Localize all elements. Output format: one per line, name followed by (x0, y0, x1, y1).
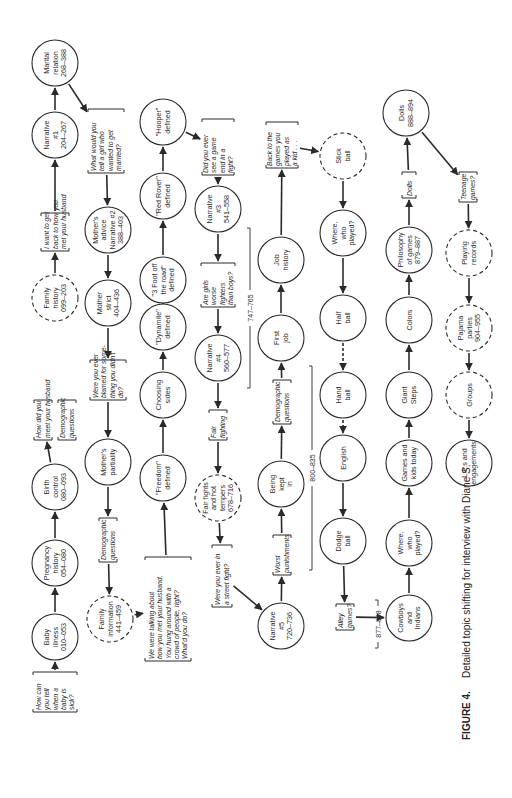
diagram-node-circle: Pregnancyhistory054–080 (32, 540, 78, 586)
diagram-node-dashed: Stickball (320, 133, 366, 179)
diagram-node-circle: "3 Foot offthe road"defined (140, 257, 186, 303)
topic-label: "Hooper"defined (154, 107, 171, 136)
flow-arrow (281, 170, 282, 235)
flow-arrow (109, 564, 110, 594)
flow-arrow (422, 132, 458, 175)
diagram-node-circle: Dolls888–894 (383, 90, 429, 136)
range-label: 747–765 (247, 294, 254, 321)
diagram-node-bracket: Did you eversee a gameend in afight? (202, 119, 235, 175)
diagram-node-bracket: How canyou tellwhen ababy issick? (33, 672, 77, 712)
flow-arrow (186, 132, 200, 139)
diagram-node-circle: Jobhistory (258, 237, 304, 283)
topic-label: Halfball (334, 312, 351, 325)
diagram-node-bracket: Demographicquestions (273, 380, 291, 424)
flow-arrow (219, 523, 220, 543)
question-label: Demographicquestions (59, 397, 75, 438)
diagram-node-dashed: Playingrecords (446, 230, 492, 276)
topic-label: Colors (405, 309, 414, 330)
diagram-node-circle: "Freedom"defined (140, 455, 186, 501)
flow-arrow (135, 613, 143, 614)
diagram-node-circle: Halfball (320, 295, 366, 341)
topic-label: GiantSteps (400, 385, 417, 404)
diagram-node-circle: Dodgeball (320, 518, 366, 564)
question-label: Were you ever ina street fight? (214, 554, 230, 605)
question-label: Back to thegames youplayed asa kid . . . (266, 132, 298, 167)
diagram-node-circle: Games andkids today (386, 440, 432, 486)
question-label: Demographicquestions (100, 519, 116, 560)
caption-text: Detailed topic shifting for interview wi… (461, 465, 472, 678)
diagram-node-dashed: Familyinformation441–459 (87, 596, 133, 642)
diagram-node-bracket: Teenagegames? (459, 172, 477, 202)
diagram-node-bracket: Dolls (402, 172, 416, 198)
diagram-node-bracket: Alleygames? (336, 604, 354, 630)
diagram-node-circle: CowboysandIndians (386, 595, 432, 641)
diagram-node-circle: Firstjob (258, 315, 304, 361)
diagram-node-bracket: Were you everblamed for some-thing you d… (90, 344, 126, 400)
diagram-node-bracket: Demographicquestions (58, 397, 76, 440)
question-label: I want to getback to how youmet your hus… (43, 194, 67, 249)
diagram-node-circle: Mother'spartiality (85, 439, 131, 485)
line-range-marker: 747–765 (247, 228, 254, 388)
question-label: How canyou tellwhen ababy issick? (35, 683, 75, 711)
diagram-node-circle: Narrative#3541–558 (195, 186, 241, 232)
diagram-node-circle: Narrative#4560–577 (195, 335, 241, 381)
diagram-node-circle: Babyillness010–053 (32, 614, 78, 660)
range-label: 800–835 (309, 454, 316, 481)
topic-label: English (339, 446, 348, 470)
ranges-layer: 747–765800–835877–878 (247, 228, 382, 648)
diagram-node-bracket: What would youtell a girl whowanted to g… (88, 109, 124, 173)
flow-diagram-svg: How canyou tellwhen ababy issick?Babyill… (0, 0, 512, 798)
diagram-node-circle: Maritalrelation268–388 (32, 40, 78, 86)
diagram-node-circle: Where,whoplayed? (320, 210, 366, 256)
line-range-marker: 800–835 (309, 366, 316, 570)
topic-label: Philosophyof games879–887 (396, 232, 421, 268)
diagram-node-circle: Where,whoplayed? (386, 520, 432, 566)
diagram-node-circle: English (320, 435, 366, 481)
diagram-node-circle: Birthcontrol080–093 (32, 464, 78, 510)
question-label: Teenagegames? (460, 174, 476, 200)
question-label: Dolls (406, 180, 413, 196)
diagram-node-dashed: Pajamaparties904–955 (446, 305, 492, 351)
topic-label: Maritalrelation268–388 (42, 49, 67, 77)
diagram-node-circle: Choosingsides (140, 372, 186, 418)
diagram-node-bracket: Were you ever ina street fight? (212, 545, 232, 607)
flow-arrow (407, 138, 408, 170)
diagram-node-circle: "Red Rover"defined (140, 173, 186, 219)
diagram-node-bracket: Back to thegames youplayed asa kid . . . (266, 122, 298, 168)
question-label: Did you eversee a gameend in afight? (202, 134, 235, 173)
diagram-node-bracket: Fairfighting (209, 410, 227, 440)
diagram-node-circle: Narrative#5720–736 (258, 603, 304, 649)
diagram-node-circle: Mother'sadviceNarrative #2388–403 (85, 207, 131, 253)
range-label: 877–878 (375, 610, 382, 637)
topic-label: Fair fightsand hottempers678–716 (201, 482, 235, 514)
diagram-node-bracket: Are girlsworsefightersthan boys? (201, 263, 235, 307)
diagram-node-bracket: Worstpunishments (273, 534, 291, 575)
flow-arrow (107, 175, 108, 205)
question-label: Demographicquestions (274, 381, 290, 422)
diagram-node-bracket: I want to getback to how youmet your hus… (41, 194, 69, 251)
topic-label: Mother'spartiality (99, 448, 116, 476)
question-label: Alleygames? (337, 604, 353, 629)
question-label: We were talking abouthow you met your hu… (148, 575, 189, 659)
flow-arrow (344, 566, 345, 602)
diagram-node-circle: "Hooper"defined (140, 99, 186, 145)
flow-arrow (164, 503, 166, 555)
flow-arrow (300, 148, 318, 151)
topic-label: Familyhistory099–203 (42, 284, 67, 312)
nodes-layer: How canyou tellwhen ababy issick?Babyill… (32, 40, 492, 712)
diagram-node-circle: Colors (386, 297, 432, 343)
figure-caption: FIGURE 4. Detailed topic shifting for in… (461, 465, 472, 740)
topic-label: Playingrecords (460, 241, 477, 265)
question-label: What would youtell a girl whowanted to g… (90, 122, 122, 171)
diagram-node-circle: Narrative#1204–267 (32, 112, 78, 158)
diagram-node-dashed: Familyhistory099–203 (32, 275, 78, 321)
topic-label: Groups (465, 383, 474, 407)
diagram-node-bracket: Demographicquestions (99, 518, 117, 562)
question-label: Worstpunishments (274, 534, 290, 574)
diagram-node-bracket: How did youmeet your husband (34, 380, 52, 440)
topic-shift-diagram: How canyou tellwhen ababy issick?Babyill… (0, 0, 512, 798)
diagram-node-circle: Motherstrict404–436 (85, 280, 131, 326)
diagram-node-circle: "Dynamite"defined (140, 304, 186, 350)
question-label: How did youmeet your husband (35, 380, 51, 438)
diagram-node-bracket: We were talking abouthow you met your hu… (145, 557, 191, 661)
